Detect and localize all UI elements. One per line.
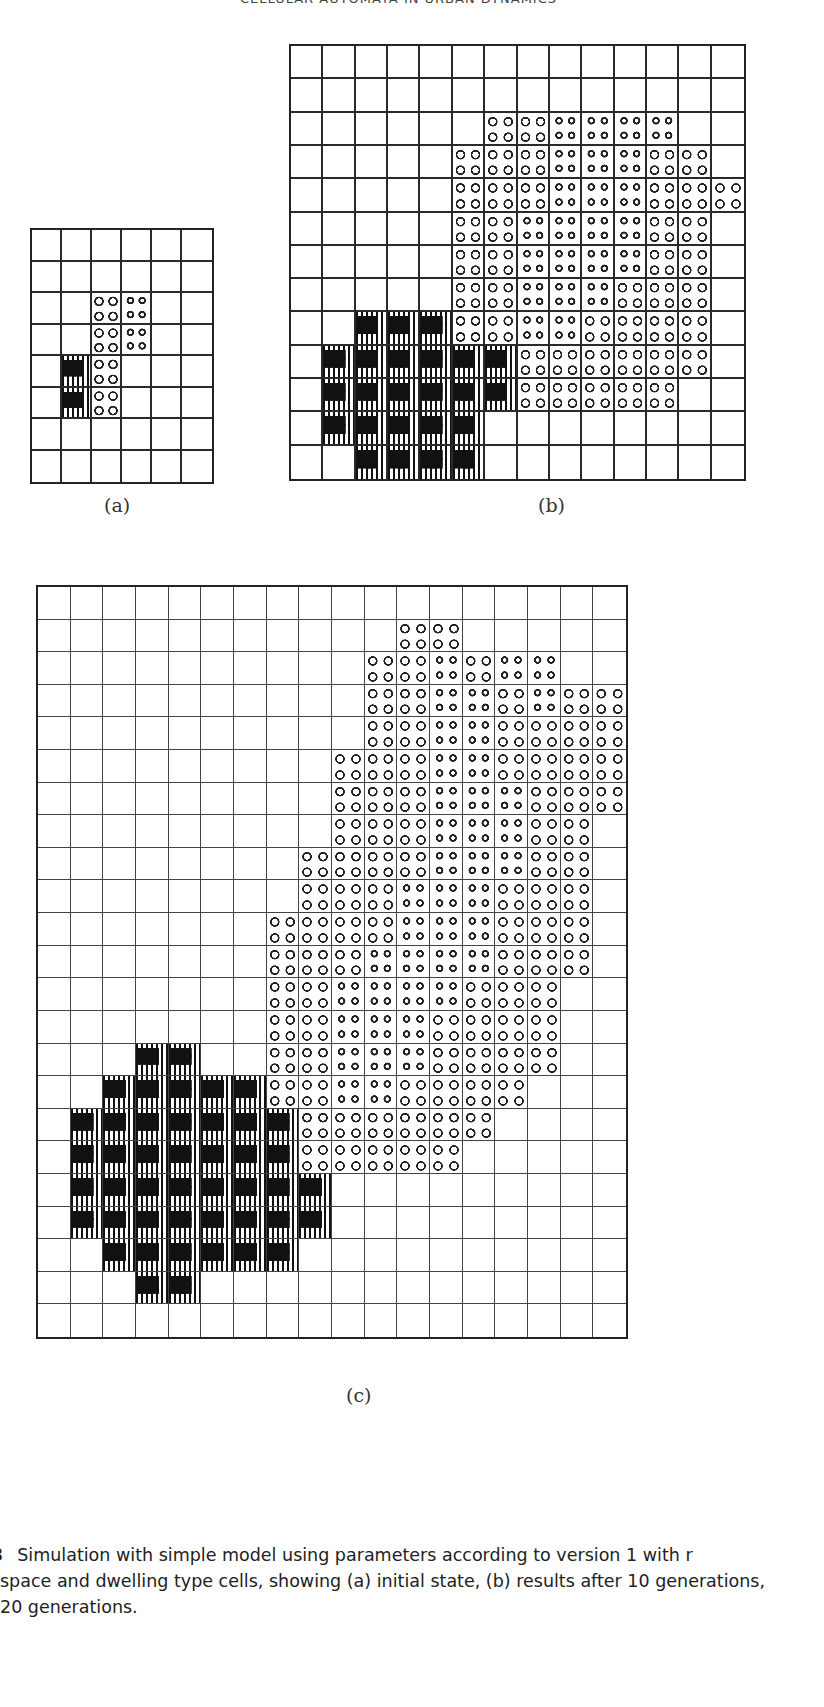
cell-empty — [388, 213, 420, 246]
cell-empty — [332, 717, 365, 750]
cell-open-space — [495, 848, 528, 881]
cell-dwelling — [485, 213, 517, 246]
cell-empty — [103, 1044, 136, 1077]
cell-dwelling — [397, 1141, 430, 1174]
cell-empty — [323, 113, 355, 146]
cell-empty — [299, 587, 332, 620]
cell-dense-dwelling — [323, 346, 355, 379]
cell-empty — [201, 717, 234, 750]
cell-empty — [169, 750, 202, 783]
cell-empty — [485, 412, 517, 445]
cell-empty — [136, 620, 169, 653]
cell-open-space — [582, 213, 614, 246]
cell-empty — [234, 946, 267, 979]
cell-empty — [712, 379, 744, 412]
cell-dwelling — [495, 1076, 528, 1109]
cell-empty — [679, 379, 711, 412]
cell-empty — [267, 880, 300, 913]
cell-empty — [712, 213, 744, 246]
cell-open-space — [365, 1011, 398, 1044]
cell-empty — [356, 279, 388, 312]
cell-empty — [169, 620, 202, 653]
cell-dwelling — [647, 279, 679, 312]
cell-dense-dwelling — [234, 1141, 267, 1174]
cell-dwelling — [528, 717, 561, 750]
cell-dwelling — [582, 312, 614, 345]
cell-dwelling — [332, 946, 365, 979]
cell-empty — [32, 230, 62, 262]
cell-dense-dwelling — [103, 1076, 136, 1109]
cell-open-space — [550, 113, 582, 146]
cell-dwelling — [299, 880, 332, 913]
cell-empty — [528, 1174, 561, 1207]
cell-empty — [291, 312, 323, 345]
cell-empty — [92, 419, 122, 451]
cell-open-space — [647, 113, 679, 146]
cell-dense-dwelling — [323, 379, 355, 412]
cell-dwelling — [495, 750, 528, 783]
cell-empty — [528, 1141, 561, 1174]
cell-dense-dwelling — [267, 1174, 300, 1207]
cell-dense-dwelling — [71, 1141, 104, 1174]
cell-empty — [291, 279, 323, 312]
cell-empty — [38, 783, 71, 816]
cell-empty — [267, 717, 300, 750]
panel-label-c: (c) — [346, 1384, 371, 1406]
cell-empty — [62, 262, 92, 294]
cell-dense-dwelling — [234, 1109, 267, 1142]
cell-empty — [420, 79, 452, 112]
cell-empty — [323, 179, 355, 212]
cell-empty — [267, 1272, 300, 1305]
cell-dwelling — [528, 880, 561, 913]
cell-open-space — [615, 213, 647, 246]
cell-empty — [122, 356, 152, 388]
cell-dense-dwelling — [267, 1239, 300, 1272]
cell-empty — [528, 587, 561, 620]
cell-empty — [323, 79, 355, 112]
cell-open-space — [615, 179, 647, 212]
cell-empty — [182, 325, 212, 357]
cell-empty — [495, 1109, 528, 1142]
cell-empty — [182, 356, 212, 388]
cell-dwelling — [495, 946, 528, 979]
cell-empty — [71, 1272, 104, 1305]
cell-empty — [561, 1109, 594, 1142]
cell-open-space — [615, 113, 647, 146]
cell-empty — [332, 1239, 365, 1272]
cell-empty — [71, 848, 104, 881]
cell-dwelling — [397, 717, 430, 750]
cell-empty — [234, 652, 267, 685]
cell-empty — [38, 1304, 71, 1337]
cell-empty — [647, 446, 679, 479]
cell-dwelling — [332, 880, 365, 913]
cell-open-space — [550, 279, 582, 312]
cell-empty — [71, 750, 104, 783]
cell-empty — [495, 1141, 528, 1174]
cell-empty — [495, 1304, 528, 1337]
cell-empty — [182, 388, 212, 420]
cell-dwelling — [365, 750, 398, 783]
cell-empty — [615, 412, 647, 445]
cell-empty — [420, 213, 452, 246]
cell-empty — [71, 1239, 104, 1272]
cell-empty — [38, 913, 71, 946]
cell-open-space — [397, 978, 430, 1011]
cell-empty — [71, 783, 104, 816]
cell-empty — [71, 880, 104, 913]
cell-empty — [495, 1239, 528, 1272]
cell-empty — [365, 1272, 398, 1305]
cell-empty — [712, 412, 744, 445]
cell-dwelling — [593, 685, 626, 718]
cell-empty — [397, 1239, 430, 1272]
cell-dwelling — [453, 279, 485, 312]
cell-empty — [71, 978, 104, 1011]
cell-empty — [136, 913, 169, 946]
cell-dwelling — [495, 978, 528, 1011]
cell-open-space — [463, 913, 496, 946]
cell-dwelling — [679, 146, 711, 179]
cell-dwelling — [365, 880, 398, 913]
cell-empty — [356, 146, 388, 179]
cell-open-space — [122, 325, 152, 357]
cell-empty — [201, 946, 234, 979]
cell-empty — [92, 262, 122, 294]
